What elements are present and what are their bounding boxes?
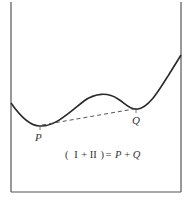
equation-plus: +	[81, 149, 87, 160]
equation-rhs-p: P	[114, 149, 122, 160]
pq-dashed-connector	[42, 109, 134, 125]
equation-term-2: II	[90, 149, 97, 160]
energy-curve	[11, 55, 181, 126]
equation-open-paren: (	[65, 149, 69, 161]
point-label-p: P	[34, 131, 42, 143]
diagram-canvas: P Q ( I + II ) = P + Q	[0, 0, 191, 207]
equation-term-1: I	[74, 149, 78, 160]
equation-rhs-q: Q	[133, 149, 141, 160]
equation-rhs-plus: +	[124, 149, 130, 160]
equation-equals: =	[106, 149, 112, 160]
equation-close-paren: )	[100, 149, 104, 161]
point-label-q: Q	[132, 114, 140, 126]
equation-label: ( I + II ) = P + Q	[65, 149, 141, 161]
